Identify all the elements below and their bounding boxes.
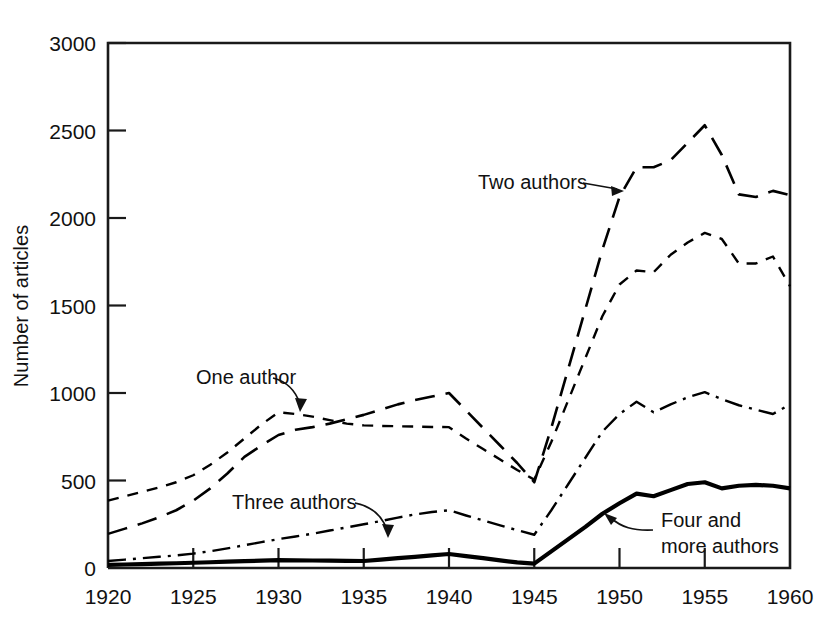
annotation-three-authors: Three authors bbox=[232, 491, 357, 513]
y-tick-label: 3000 bbox=[49, 32, 96, 55]
x-axis-ticks bbox=[193, 548, 705, 568]
x-tick-label: 1940 bbox=[426, 585, 473, 608]
x-tick-label: 1930 bbox=[255, 585, 302, 608]
y-tick-label: 2000 bbox=[49, 207, 96, 230]
y-tick-label: 2500 bbox=[49, 120, 96, 143]
annotation-arrowhead-one-author bbox=[295, 398, 307, 412]
y-axis-tick-labels: 050010001500200025003000 bbox=[49, 32, 96, 580]
y-tick-label: 1000 bbox=[49, 382, 96, 405]
y-axis-title: Number of articles bbox=[10, 225, 32, 387]
y-tick-label: 500 bbox=[61, 470, 96, 493]
series-lines bbox=[108, 125, 790, 565]
x-tick-label: 1950 bbox=[596, 585, 643, 608]
annotation-arrowhead-four-more-authors bbox=[604, 513, 617, 525]
x-tick-label: 1920 bbox=[85, 585, 132, 608]
x-tick-label: 1925 bbox=[170, 585, 217, 608]
annotation-arrowhead-two-authors bbox=[611, 186, 624, 196]
annotation-two-authors: Two authors bbox=[478, 171, 587, 193]
chart-canvas: 050010001500200025003000 192019251930193… bbox=[0, 0, 829, 633]
x-tick-label: 1935 bbox=[340, 585, 387, 608]
annotation-four-more-authors-line2: more authors bbox=[661, 535, 779, 557]
y-tick-label: 1500 bbox=[49, 295, 96, 318]
annotation-four-more-authors-line1: Four and bbox=[661, 509, 741, 531]
annotation-one-author: One author bbox=[196, 366, 296, 388]
annotation-arrowhead-three-authors bbox=[382, 524, 394, 538]
annotation-arrow-four-more-authors bbox=[611, 518, 653, 530]
chart-figure: 050010001500200025003000 192019251930193… bbox=[0, 0, 829, 633]
series-line-two-authors bbox=[108, 125, 790, 534]
y-axis-ticks bbox=[108, 43, 126, 481]
x-tick-label: 1945 bbox=[511, 585, 558, 608]
x-axis-tick-labels: 192019251930193519401945195019551960 bbox=[85, 585, 814, 608]
x-tick-label: 1955 bbox=[681, 585, 728, 608]
x-tick-label: 1960 bbox=[767, 585, 814, 608]
y-tick-label: 0 bbox=[84, 557, 96, 580]
